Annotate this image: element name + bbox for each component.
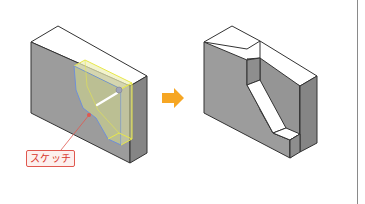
arrow-right-icon [162,88,184,108]
block-after [204,26,317,158]
block-before-side-face [130,76,147,163]
callout-point-dot [87,113,91,117]
block-after-side-face [300,76,317,152]
diagram-canvas [0,0,365,204]
sketch-callout-label: スケッチ [26,150,75,167]
vertical-divider [357,0,358,204]
sketch-extrude-outline [121,83,132,145]
extrude-handle-dot [116,87,122,93]
